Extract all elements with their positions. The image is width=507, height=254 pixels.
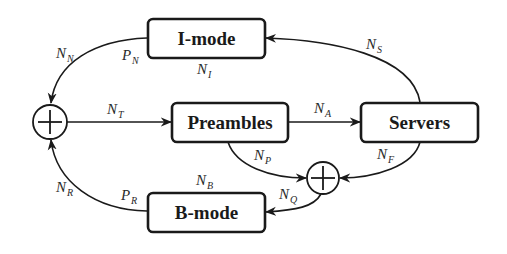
sum-left-icon — [33, 105, 67, 139]
label-n-q: N Q — [278, 186, 298, 205]
diagram-canvas: I-mode Preambles Servers B-mode N N — [0, 0, 507, 254]
servers-label: Servers — [389, 112, 450, 133]
svg-text:B: B — [207, 180, 213, 191]
flow-diagram: I-mode Preambles Servers B-mode N N — [0, 0, 507, 254]
svg-text:N: N — [278, 186, 290, 202]
svg-text:Q: Q — [290, 194, 298, 205]
label-n-s: N S — [365, 36, 382, 55]
svg-text:I: I — [207, 69, 212, 80]
svg-text:R: R — [130, 195, 137, 206]
label-p-r: P R — [120, 187, 137, 206]
svg-text:N: N — [253, 147, 265, 163]
imode-node: I-mode — [148, 19, 265, 58]
label-n-n: N N — [55, 45, 75, 64]
bmode-label: B-mode — [175, 202, 238, 223]
svg-text:R: R — [66, 187, 73, 198]
label-n-p: N P — [253, 147, 271, 166]
svg-text:N: N — [131, 55, 140, 66]
svg-text:S: S — [377, 44, 382, 55]
svg-text:F: F — [387, 154, 395, 165]
label-n-f: N F — [376, 146, 395, 165]
svg-text:N: N — [313, 100, 325, 116]
svg-text:P: P — [264, 155, 271, 166]
label-n-b: N B — [195, 172, 213, 191]
label-n-a: N A — [313, 100, 332, 119]
sum-right-icon — [307, 162, 339, 194]
svg-text:N: N — [66, 53, 75, 64]
bmode-node: B-mode — [148, 193, 265, 232]
label-p-n: P N — [121, 47, 140, 66]
label-n-t: N T — [106, 101, 125, 120]
imode-label: I-mode — [177, 28, 235, 49]
svg-text:N: N — [106, 101, 118, 117]
svg-text:N: N — [196, 61, 208, 77]
preambles-label: Preambles — [187, 112, 272, 133]
label-n-i: N I — [196, 61, 212, 80]
svg-text:N: N — [365, 36, 377, 52]
svg-text:T: T — [118, 109, 125, 120]
svg-text:N: N — [376, 146, 388, 162]
svg-text:P: P — [121, 47, 131, 63]
svg-text:N: N — [55, 179, 67, 195]
edge-servers-to-imode — [266, 38, 420, 102]
svg-text:P: P — [120, 187, 130, 203]
preambles-node: Preambles — [172, 103, 288, 142]
svg-text:A: A — [324, 108, 332, 119]
servers-node: Servers — [361, 103, 478, 142]
svg-text:N: N — [55, 45, 67, 61]
svg-text:N: N — [195, 172, 207, 188]
